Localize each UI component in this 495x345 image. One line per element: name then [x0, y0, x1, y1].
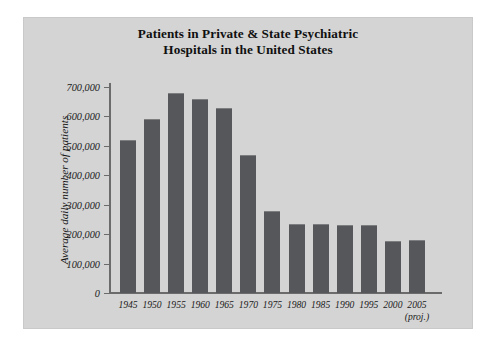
x-tick-label: 1990 — [335, 299, 354, 310]
y-tick-label: 200,000 — [67, 229, 100, 240]
bar — [240, 155, 256, 293]
bar-slot: 1980 — [289, 87, 305, 293]
x-tick-label-note: (proj.) — [405, 311, 429, 322]
y-tick-mark — [104, 205, 109, 206]
bar — [168, 93, 184, 293]
x-tick-label-year: 1990 — [335, 299, 354, 310]
x-tick-label: 1995 — [359, 299, 378, 310]
x-tick-label-year: 1975 — [263, 299, 282, 310]
chart-title-line-2: Hospitals in the United States — [24, 42, 472, 58]
bar-slot: 2005(proj.) — [409, 87, 425, 293]
x-tick-label-year: 1980 — [287, 299, 306, 310]
bar-slot: 1990 — [337, 87, 353, 293]
bar — [144, 119, 160, 293]
y-tick-mark — [104, 175, 109, 176]
bar — [192, 99, 208, 293]
bar — [385, 241, 401, 293]
y-tick-label: 400,000 — [67, 170, 100, 181]
x-tick-label: 1960 — [191, 299, 210, 310]
x-tick-label: 1955 — [167, 299, 186, 310]
x-tick-label-year: 1995 — [359, 299, 378, 310]
x-tick-label-year: 1960 — [191, 299, 210, 310]
y-tick-label: 600,000 — [67, 111, 100, 122]
bar-slot: 1965 — [216, 87, 232, 293]
y-tick-label: 0 — [95, 288, 100, 299]
y-tick-mark — [104, 264, 109, 265]
x-tick-label: 1975 — [263, 299, 282, 310]
bar-slot: 1950 — [144, 87, 160, 293]
y-tick-label: 100,000 — [67, 258, 100, 269]
x-tick-label-year: 1985 — [311, 299, 330, 310]
chart-figure: Patients in Private & State Psychiatric … — [24, 18, 472, 328]
bar — [216, 108, 232, 293]
x-tick-label-year: 1950 — [142, 299, 161, 310]
x-tick-label-year: 2000 — [383, 299, 402, 310]
bar-slot: 1970 — [240, 87, 256, 293]
bar-slot: 1960 — [192, 87, 208, 293]
bar — [289, 224, 305, 293]
x-tick-label-year: 2005 — [407, 299, 426, 310]
x-tick-label-year: 1970 — [239, 299, 258, 310]
x-tick-label: 1965 — [215, 299, 234, 310]
bar-slot: 1955 — [168, 87, 184, 293]
bar — [264, 211, 280, 293]
y-tick-label: 700,000 — [67, 82, 100, 93]
y-tick-mark — [104, 234, 109, 235]
x-tick-label-year: 1965 — [215, 299, 234, 310]
x-tick-label: 1950 — [142, 299, 161, 310]
x-tick-label-year: 1955 — [167, 299, 186, 310]
x-tick-label-year: 1945 — [118, 299, 137, 310]
chart-title-line-1: Patients in Private & State Psychiatric — [138, 26, 358, 41]
y-tick-label: 300,000 — [67, 199, 100, 210]
bar-slot: 1975 — [264, 87, 280, 293]
plot-area: 700,000600,000500,000400,000300,000200,0… — [109, 87, 436, 293]
bar — [361, 225, 377, 293]
bar-slot: 1985 — [313, 87, 329, 293]
y-tick-label: 500,000 — [67, 140, 100, 151]
y-tick-mark — [104, 116, 109, 117]
x-tick-label: 1970 — [239, 299, 258, 310]
bar — [409, 240, 425, 293]
x-tick-label: 2000 — [383, 299, 402, 310]
bar-slot: 1995 — [361, 87, 377, 293]
bar — [337, 225, 353, 293]
x-tick-label: 1985 — [311, 299, 330, 310]
y-axis-line — [109, 83, 111, 294]
bar — [313, 224, 329, 293]
chart-title: Patients in Private & State Psychiatric … — [24, 26, 472, 57]
y-tick-mark — [104, 87, 109, 88]
bar — [120, 140, 136, 293]
bar-slot: 1945 — [120, 87, 136, 293]
x-tick-label: 1945 — [118, 299, 137, 310]
y-axis-title-text: Average daily number of patients — [58, 116, 70, 265]
x-tick-label: 1980 — [287, 299, 306, 310]
y-tick-mark — [104, 146, 109, 147]
x-tick-label: 2005(proj.) — [405, 299, 429, 322]
bar-slot: 2000 — [385, 87, 401, 293]
y-tick-mark — [104, 293, 109, 294]
